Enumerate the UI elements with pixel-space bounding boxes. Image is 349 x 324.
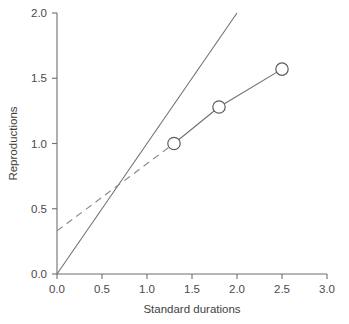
scatter-plot: 0.0 0.5 1.0 1.5 2.0 0.0 0.5 1.0 1.5 2.0 … [0,0,349,324]
y-tick-label: 1.0 [31,138,47,150]
y-axis-title: Reproductions [7,106,19,180]
x-tick-label: 1.5 [184,283,200,295]
y-tick-label: 0.0 [31,268,47,280]
y-tick-label: 0.5 [31,203,47,215]
x-tick-label: 2.5 [274,283,290,295]
y-tick-label: 2.0 [31,7,47,19]
data-point-marker [276,63,288,75]
plot-background [0,0,349,324]
data-point-marker [168,137,180,149]
x-axis-title: Standard durations [143,303,240,315]
y-tick-label: 1.5 [31,72,47,84]
x-tick-label: 0.0 [49,283,65,295]
x-tick-label: 3.0 [319,283,335,295]
x-tick-label: 2.0 [229,283,245,295]
x-tick-label: 1.0 [139,283,155,295]
data-point-marker [213,101,225,113]
x-tick-label: 0.5 [94,283,110,295]
chart-figure: 0.0 0.5 1.0 1.5 2.0 0.0 0.5 1.0 1.5 2.0 … [0,0,349,324]
